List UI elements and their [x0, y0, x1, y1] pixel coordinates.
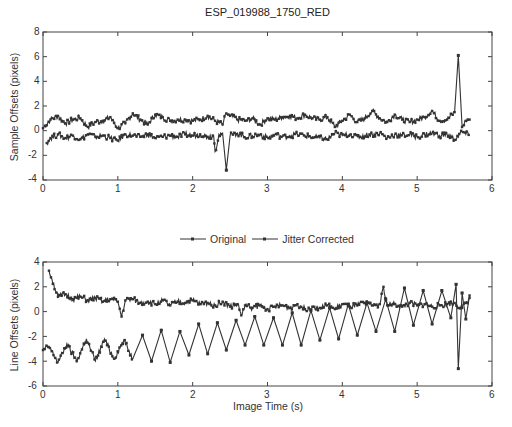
- outlier-point: [449, 316, 452, 319]
- outlier-point: [457, 367, 460, 370]
- outlier-point: [225, 169, 228, 172]
- outlier-point: [206, 352, 209, 355]
- outlier-point: [464, 318, 467, 321]
- outlier-point: [197, 323, 200, 326]
- plot-canvas: [0, 0, 512, 427]
- outlier-point: [431, 323, 434, 326]
- outlier-point: [422, 289, 425, 292]
- outlier-point: [455, 283, 458, 286]
- outlier-point: [169, 361, 172, 364]
- outlier-point: [440, 289, 443, 292]
- outlier-point: [403, 287, 406, 290]
- figure: ESP_019988_1750_RED Sample Offsets (pixe…: [0, 0, 512, 427]
- outlier-point: [393, 330, 396, 333]
- top-plot-area: [42, 32, 492, 180]
- outlier-point: [318, 339, 321, 342]
- outlier-point: [272, 316, 275, 319]
- outlier-point: [244, 344, 247, 347]
- outlier-point: [356, 334, 359, 337]
- outlier-point: [216, 321, 219, 324]
- axes-frame: [43, 32, 492, 180]
- outlier-point: [253, 315, 256, 318]
- outlier-point: [281, 344, 284, 347]
- outlier-point: [457, 54, 460, 57]
- outlier-point: [235, 319, 238, 322]
- outlier-point: [141, 334, 144, 337]
- outlier-point: [150, 360, 153, 363]
- outlier-point: [412, 324, 415, 327]
- series-line-original: [43, 284, 470, 368]
- outlier-point: [187, 354, 190, 357]
- outlier-point: [337, 337, 340, 340]
- outlier-point: [375, 330, 378, 333]
- outlier-point: [300, 344, 303, 347]
- outlier-point: [160, 329, 163, 332]
- outlier-point: [262, 344, 265, 347]
- outlier-point: [225, 349, 228, 352]
- series-line-jitter-corrected: [49, 271, 470, 317]
- bottom-plot-area: [42, 262, 492, 386]
- outlier-point: [178, 330, 181, 333]
- outlier-point: [291, 311, 294, 314]
- axes-frame: [43, 262, 492, 386]
- outlier-point: [461, 292, 464, 295]
